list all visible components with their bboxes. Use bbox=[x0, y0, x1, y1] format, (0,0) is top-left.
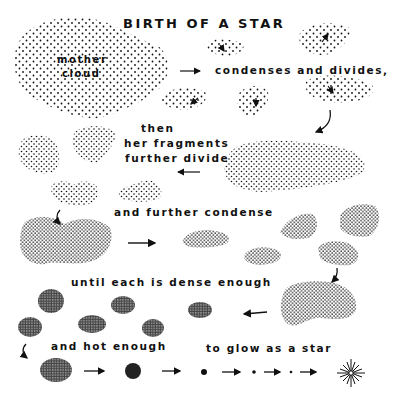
caption-further-divide: further divide bbox=[125, 153, 229, 164]
caption-and-further-condense: and further condense bbox=[114, 207, 274, 218]
label-mother: mother bbox=[57, 55, 108, 65]
curved-arrow-icon bbox=[316, 110, 330, 132]
caption-then: then bbox=[141, 123, 175, 134]
curved-arrow-icon bbox=[23, 344, 27, 358]
dense-large-fragment bbox=[281, 281, 356, 325]
star-burst-icon bbox=[337, 359, 365, 387]
caption-until-dense-enough: until each is dense enough bbox=[71, 277, 272, 288]
protostar-small bbox=[201, 369, 207, 375]
page-title: BIRTH OF A STAR bbox=[123, 17, 285, 30]
caption-glow-as-star: to glow as a star bbox=[206, 343, 332, 354]
fragments-row4 bbox=[18, 289, 212, 337]
caption-condenses-and-divides: condenses and divides, bbox=[215, 65, 389, 76]
birth-of-a-star-diagram: BIRTH OF A STAR mother cloud condenses a… bbox=[0, 0, 394, 398]
arrow-icon bbox=[244, 312, 267, 314]
label-cloud: cloud bbox=[62, 69, 101, 79]
caption-her-fragments: her fragments bbox=[124, 138, 229, 149]
large-fragment bbox=[225, 141, 365, 192]
double-fragment bbox=[20, 217, 112, 264]
collapse-sequence bbox=[40, 358, 316, 382]
caption-and-hot-enough: and hot enough bbox=[51, 341, 167, 352]
protostar-tiny bbox=[290, 371, 293, 374]
protostar-large bbox=[40, 358, 72, 382]
curved-arrow-icon bbox=[332, 268, 337, 282]
protostar-medium bbox=[125, 363, 141, 379]
protostar-smaller bbox=[252, 370, 256, 374]
